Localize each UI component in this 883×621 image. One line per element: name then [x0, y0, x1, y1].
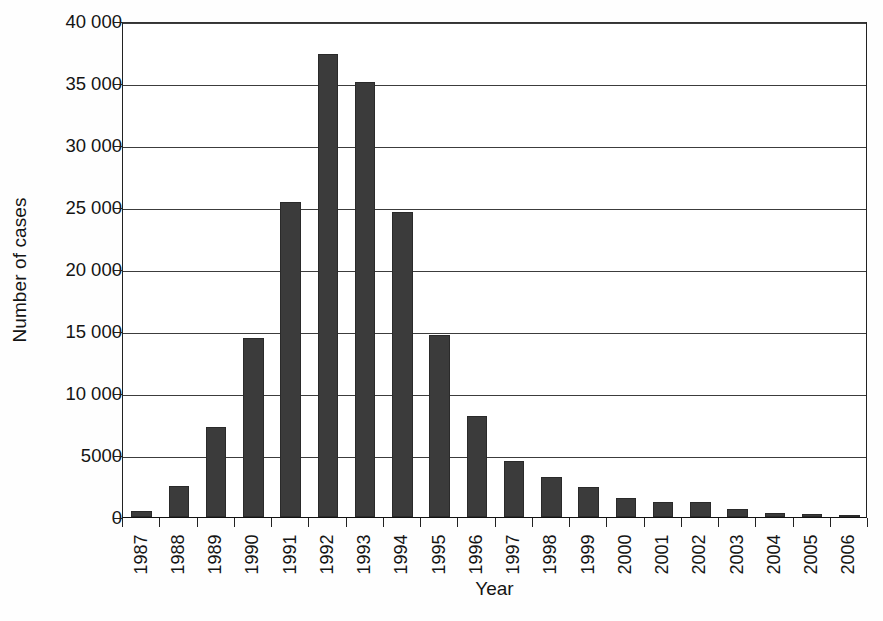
- gridline: [123, 85, 866, 86]
- x-axis-tick-mark: [271, 518, 272, 527]
- bar: [616, 498, 636, 517]
- x-axis-tick-mark: [569, 518, 570, 527]
- y-axis-tick-label: 10 000: [18, 383, 122, 405]
- plot-area: [122, 22, 867, 518]
- y-axis-tick-label: 0: [18, 507, 122, 529]
- x-axis-tick-label-text: 2000: [614, 534, 635, 574]
- y-axis-tick-mark: [113, 22, 122, 23]
- x-axis-tick-mark: [308, 518, 309, 527]
- x-axis-tick-label-text: 1989: [205, 534, 226, 574]
- y-axis-tick-mark: [113, 456, 122, 457]
- x-axis-tick-label-text: 2005: [801, 534, 822, 574]
- x-axis-tick-mark: [532, 518, 533, 527]
- x-axis-tick-label-text: 1988: [167, 534, 188, 574]
- x-axis-tick-label-text: 1996: [465, 534, 486, 574]
- x-axis-tick-mark: [495, 518, 496, 527]
- x-axis-tick-mark: [755, 518, 756, 527]
- bar: [355, 82, 375, 517]
- gridline: [123, 209, 866, 210]
- gridline: [123, 147, 866, 148]
- x-axis-tick-label-text: 1990: [242, 534, 263, 574]
- x-axis-tick-label-text: 1991: [279, 534, 300, 574]
- y-axis-tick-label: 15 000: [18, 321, 122, 343]
- x-axis-tick-mark: [867, 518, 868, 527]
- x-axis-tick-label: 2006: [822, 528, 874, 580]
- bar: [727, 509, 747, 517]
- x-axis-tick-label-text: 2004: [763, 534, 784, 574]
- bar: [653, 502, 673, 518]
- x-axis-tick-label-text: 1987: [130, 534, 151, 574]
- y-axis-ticks: 0500010 00015 00020 00025 00030 00035 00…: [0, 0, 122, 540]
- x-axis-tick-mark: [718, 518, 719, 527]
- gridline: [123, 457, 866, 458]
- bar: [541, 477, 561, 517]
- x-axis-tick-label-text: 2002: [689, 534, 710, 574]
- x-axis-tick-mark: [159, 518, 160, 527]
- bar: [467, 416, 487, 517]
- bar: [690, 502, 710, 517]
- bar: [392, 212, 412, 517]
- bar: [243, 338, 263, 517]
- gridline: [123, 333, 866, 334]
- x-axis-title: Year: [122, 578, 867, 600]
- y-axis-tick-label: 30 000: [18, 135, 122, 157]
- gridline: [123, 395, 866, 396]
- y-axis-tick-mark: [113, 208, 122, 209]
- x-axis-tick-mark: [197, 518, 198, 527]
- x-axis-tick-label-text: 1998: [540, 534, 561, 574]
- gridline: [123, 23, 866, 24]
- x-axis-tick-labels: 1987198819891990199119921993199419951996…: [122, 528, 867, 580]
- x-axis-tick-mark: [681, 518, 682, 527]
- bar-chart-figure: Number of cases 0500010 00015 00020 0002…: [0, 0, 883, 621]
- x-axis-tick-mark: [346, 518, 347, 527]
- x-axis-tick-label-text: 1995: [428, 534, 449, 574]
- y-axis-tick-label: 5000: [18, 445, 122, 467]
- y-axis-tick-label: 40 000: [18, 11, 122, 33]
- y-axis-tick-mark: [113, 270, 122, 271]
- x-axis-tick-mark: [644, 518, 645, 527]
- y-axis-tick-mark: [113, 394, 122, 395]
- x-axis-tick-label-text: 1999: [577, 534, 598, 574]
- y-axis-tick-mark: [113, 146, 122, 147]
- bar: [765, 513, 785, 517]
- bar: [429, 335, 449, 517]
- x-axis-tick-mark: [420, 518, 421, 527]
- x-axis-tick-label-text: 2003: [726, 534, 747, 574]
- y-axis-tick-mark: [113, 518, 122, 519]
- x-axis-tick-mark: [793, 518, 794, 527]
- x-axis-tick-label-text: 1992: [316, 534, 337, 574]
- y-axis-tick-label: 20 000: [18, 259, 122, 281]
- x-axis-tick-mark: [457, 518, 458, 527]
- x-axis-tick-mark: [606, 518, 607, 527]
- y-axis-tick-label: 25 000: [18, 197, 122, 219]
- x-axis-tick-mark: [234, 518, 235, 527]
- y-axis-tick-mark: [113, 332, 122, 333]
- x-axis-tick-label-text: 2001: [652, 534, 673, 574]
- bar: [504, 461, 524, 517]
- x-axis-tick-label-text: 1994: [391, 534, 412, 574]
- x-axis-tick-mark: [830, 518, 831, 527]
- bar: [169, 486, 189, 517]
- bar: [839, 515, 859, 518]
- gridline: [123, 271, 866, 272]
- x-axis-tick-mark: [383, 518, 384, 527]
- y-axis-tick-mark: [113, 84, 122, 85]
- x-axis-ticks: [122, 518, 867, 528]
- bar: [578, 487, 598, 517]
- bar: [802, 514, 822, 517]
- bar: [318, 54, 338, 517]
- x-axis-tick-label-text: 1993: [354, 534, 375, 574]
- y-axis-tick-label: 35 000: [18, 73, 122, 95]
- x-axis-tick-mark: [122, 518, 123, 527]
- bar: [280, 202, 300, 517]
- x-axis-tick-label-text: 2006: [838, 534, 859, 574]
- x-axis-tick-label-text: 1997: [503, 534, 524, 574]
- bar: [131, 511, 151, 517]
- bar: [206, 427, 226, 517]
